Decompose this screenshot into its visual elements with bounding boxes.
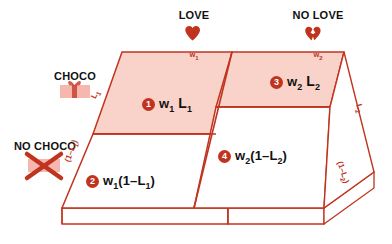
cell-2-term-b: (1–L <box>118 173 145 188</box>
cell-4-term-b-tail: ) <box>283 148 287 163</box>
diagram-canvas: LOVE w1 NO LOVE w2 CHOCO NO CHOCO L1 (1–… <box>0 0 392 244</box>
column-header-love: LOVE <box>164 9 224 21</box>
cell-3-term-a: w <box>287 74 297 89</box>
slab-front-face-right <box>228 208 324 224</box>
weight-label-w2: w2 <box>288 50 348 61</box>
cell-1-term-a: w <box>159 96 169 111</box>
cell-2-term-b-tail: ) <box>151 173 155 188</box>
cell-badge-2: 2 <box>86 175 99 188</box>
region-1-surface <box>93 52 232 134</box>
cell-3-term-b: L <box>306 73 315 89</box>
cell-label-1: 1 w1 L1 <box>142 95 192 114</box>
cell-1-term-b-sub: 1 <box>187 104 192 114</box>
isometric-slab-svg <box>0 0 392 244</box>
cell-label-2: 2 w1(1–L1) <box>86 173 155 191</box>
region-2-surface <box>62 134 216 208</box>
slab-front-face-left <box>62 208 228 224</box>
cell-4-term-a: w <box>235 148 245 163</box>
cell-expr-1: w1 L1 <box>159 95 192 114</box>
cell-badge-4: 4 <box>218 150 231 163</box>
broken-heart-icon <box>305 27 320 41</box>
cell-4-term-b: (1–L <box>250 148 277 163</box>
cell-1-term-b: L <box>178 95 187 111</box>
cell-expr-2: w1(1–L1) <box>103 173 155 191</box>
column-header-no-love: NO LOVE <box>281 9 355 21</box>
cell-badge-1: 1 <box>142 98 155 111</box>
gift-box-icon <box>60 81 90 98</box>
cell-expr-4: w2(1–L2) <box>235 148 287 166</box>
weight-sub-w1: 1 <box>195 55 198 61</box>
x-cross-icon <box>27 154 61 178</box>
cell-badge-3: 3 <box>270 76 283 89</box>
weight-label-w1: w1 <box>164 50 224 61</box>
row-header-choco: CHOCO <box>44 70 106 82</box>
heart-icon <box>185 26 200 41</box>
cell-label-3: 3 w2 L2 <box>270 73 320 92</box>
cell-3-term-b-sub: 2 <box>315 82 320 92</box>
cell-label-4: 4 w2(1–L2) <box>218 148 287 166</box>
cell-expr-3: w2 L2 <box>287 73 320 92</box>
weight-sub-w2: 2 <box>319 55 322 61</box>
cell-2-term-a: w <box>103 173 113 188</box>
